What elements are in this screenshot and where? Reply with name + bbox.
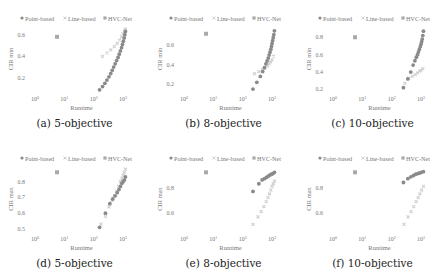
x-axis-label: Runtime (70, 244, 93, 251)
x-marker-icon (362, 17, 365, 20)
data-point (121, 39, 125, 43)
x-marker-icon (213, 157, 216, 160)
data-point (265, 200, 268, 203)
circle-marker-icon (318, 16, 321, 19)
panel-b: Point-basedLine-basedHVC-Net0.20.40.6CIR… (149, 0, 298, 140)
data-point (412, 205, 415, 208)
caption-e: (e) 8-objective (149, 257, 298, 269)
y-tick-label: 0.2 (18, 75, 26, 81)
legend: Point-basedLine-basedHVC-Net (20, 155, 132, 162)
data-point (268, 192, 271, 195)
y-tick-label: 0.8 (167, 185, 175, 191)
x-tick-label: 103 (417, 95, 425, 103)
data-point (273, 29, 277, 33)
square-marker-icon (252, 156, 255, 159)
data-point (105, 52, 108, 55)
legend-label: Point-based (323, 155, 353, 162)
data-point (119, 49, 123, 53)
x-tick-label: 101 (60, 235, 68, 243)
data-point (410, 210, 413, 213)
legend-label: Line-based (68, 15, 96, 22)
data-point (112, 65, 116, 69)
data-point (421, 67, 424, 70)
x-tick-label: 103 (268, 235, 276, 243)
data-point (55, 35, 59, 39)
caption-c: (c) 10-objective (298, 117, 447, 129)
y-tick-label: 0.6 (18, 210, 26, 216)
y-axis-label: CIR max (305, 186, 312, 210)
data-point (113, 194, 117, 198)
data-point (105, 78, 109, 82)
data-point (108, 202, 112, 206)
series-point-based (402, 29, 426, 89)
x-axis-label: Runtime (219, 104, 242, 111)
x-marker-icon (64, 17, 67, 20)
x-tick-label: 100 (329, 95, 337, 103)
square-marker-icon (103, 16, 106, 19)
series-point-based (98, 175, 128, 229)
x-tick-label: 101 (60, 95, 68, 103)
x-tick-label: 102 (90, 235, 98, 243)
legend-item-point-based: Point-based (318, 155, 353, 162)
panel-d: Point-basedLine-basedHVC-Net0.50.60.70.8… (0, 140, 149, 280)
legend-item-hvc-net: HVC-Net (252, 155, 281, 162)
legend-label: Point-based (174, 15, 204, 22)
legend-label: HVC-Net (406, 155, 430, 162)
data-point (117, 52, 121, 56)
data-point (266, 196, 269, 199)
x-tick-label: 100 (180, 95, 188, 103)
data-point (113, 45, 116, 48)
x-tick-label: 102 (239, 235, 247, 243)
data-point (122, 36, 126, 40)
x-tick-label: 103 (417, 235, 425, 243)
data-point (353, 35, 357, 39)
legend-item-line-based: Line-based (64, 15, 97, 22)
circle-marker-icon (169, 156, 172, 159)
y-axis-label: CIR min (156, 47, 163, 70)
x-axis-label: Runtime (219, 244, 242, 251)
legend-item-hvc-net: HVC-Net (401, 155, 430, 162)
x-tick-label: 103 (119, 235, 127, 243)
x-tick-label: 102 (388, 95, 396, 103)
series-hvc-net (55, 35, 59, 39)
series-hvc-net (204, 170, 208, 174)
data-point (418, 192, 421, 195)
legend: Point-basedLine-basedHVC-Net (169, 15, 281, 22)
data-point (258, 75, 262, 79)
square-marker-icon (401, 16, 404, 19)
x-tick-label: 102 (90, 95, 98, 103)
data-point (269, 189, 272, 192)
y-tick-label: 0.4 (167, 62, 175, 68)
data-point (104, 211, 108, 215)
data-point (409, 70, 413, 74)
data-point (411, 75, 414, 78)
data-point (257, 70, 260, 73)
data-point (255, 80, 259, 84)
y-tick-label: 0.6 (316, 52, 324, 58)
y-axis-label: CIR min (7, 47, 14, 70)
x-axis-label: Runtime (70, 104, 93, 111)
legend: Point-basedLine-basedHVC-Net (318, 15, 430, 22)
caption-a: (a) 5-objective (0, 117, 149, 129)
data-point (123, 171, 126, 174)
series-line-based (251, 180, 275, 226)
data-point (104, 215, 107, 218)
caption-b: (b) 8-objective (149, 117, 298, 129)
series-point-based (98, 30, 128, 92)
legend-item-hvc-net: HVC-Net (103, 155, 132, 162)
data-point (124, 175, 128, 179)
data-point (124, 30, 128, 34)
data-point (100, 223, 103, 226)
legend-item-hvc-net: HVC-Net (401, 15, 430, 22)
data-point (257, 182, 261, 186)
x-tick-label: 101 (209, 95, 217, 103)
legend-item-point-based: Point-based (169, 155, 204, 162)
legend-label: HVC-Net (108, 155, 132, 162)
data-point (111, 197, 115, 201)
legend-label: HVC-Net (406, 15, 430, 22)
legend-item-line-based: Line-based (64, 155, 97, 162)
data-point (115, 59, 119, 63)
data-point (101, 85, 105, 89)
series-point-based (402, 170, 426, 185)
data-point (116, 55, 120, 59)
